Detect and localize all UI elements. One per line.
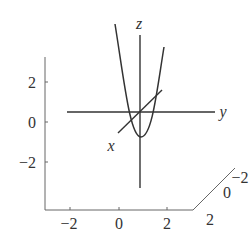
vertical-tick-labels: 2 0 −2 <box>19 74 36 171</box>
depth-tick-label: −2 <box>231 169 248 186</box>
horizontal-tick-labels: −2 0 2 <box>60 215 171 232</box>
horizontal-tick-label: 0 <box>115 215 123 232</box>
depth-tick-label: 0 <box>223 184 231 201</box>
x-axis-label: x <box>106 137 114 154</box>
z-axis-label: z <box>135 15 143 32</box>
vertical-tick-label: 2 <box>28 74 36 91</box>
depth-tick-labels: 2 0 −2 <box>206 169 249 228</box>
coordinate-axes <box>67 35 215 188</box>
horizontal-tick-label: −2 <box>60 215 77 232</box>
vertical-tick-label: −2 <box>19 154 36 171</box>
y-axis-label: y <box>217 103 227 121</box>
3d-plot-figure: 2 0 −2 −2 0 2 2 0 −2 z y x <box>0 0 251 240</box>
vertical-tick-label: 0 <box>28 114 36 131</box>
horizontal-tick-label: 2 <box>163 215 171 232</box>
depth-tick-label: 2 <box>206 211 214 228</box>
